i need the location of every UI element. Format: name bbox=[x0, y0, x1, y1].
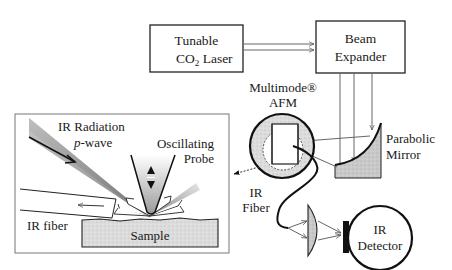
sample-label: Sample bbox=[131, 228, 170, 243]
detector-label-line1: IR bbox=[374, 222, 387, 237]
ir-detector: IR Detector bbox=[343, 206, 412, 270]
afm-output-arrow bbox=[234, 167, 259, 174]
afm-label-line2: AFM bbox=[269, 95, 298, 110]
beam-expander-box: Beam Expander bbox=[316, 21, 405, 73]
laser-beam-arrows bbox=[244, 44, 314, 50]
parabolic-mirror: Parabolic Mirror bbox=[335, 123, 435, 178]
fiber-label-line2: Fiber bbox=[242, 200, 270, 215]
beam-expander-label-line2: Expander bbox=[335, 49, 387, 64]
ir-afm-setup-diagram: Tunable CO2 Laser Beam Expander Paraboli… bbox=[0, 0, 452, 270]
tunable-laser-box: Tunable CO2 Laser bbox=[150, 25, 243, 72]
afm-label-line1: Multimode® bbox=[249, 80, 317, 95]
lens-to-detector-arrows bbox=[318, 221, 341, 240]
beam-expander-label-line1: Beam bbox=[345, 31, 377, 46]
ir-radiation-label: IR Radiation bbox=[58, 119, 125, 134]
collection-lens bbox=[308, 205, 317, 256]
laser-label-line1: Tunable bbox=[175, 33, 219, 48]
probe-label: Probe bbox=[184, 151, 215, 166]
ir-fiber-inset-label: IR fiber bbox=[27, 218, 68, 233]
fiber-label-line1: IR bbox=[250, 185, 263, 200]
afm-unit: Multimode® AFM bbox=[249, 80, 317, 178]
pwave-label: p-wave bbox=[73, 135, 112, 150]
mirror-label-line1: Parabolic bbox=[386, 131, 435, 146]
fiber-to-lens-arrows bbox=[288, 221, 307, 238]
oscillating-label: Oscillating bbox=[157, 136, 215, 151]
mirror-label-line2: Mirror bbox=[386, 147, 421, 162]
laser-label-line2: CO2 Laser bbox=[176, 51, 233, 68]
detector-label-line2: Detector bbox=[358, 238, 403, 253]
inset-tip-detail: IR Radiation p-wave Oscillating Probe IR… bbox=[15, 114, 229, 253]
